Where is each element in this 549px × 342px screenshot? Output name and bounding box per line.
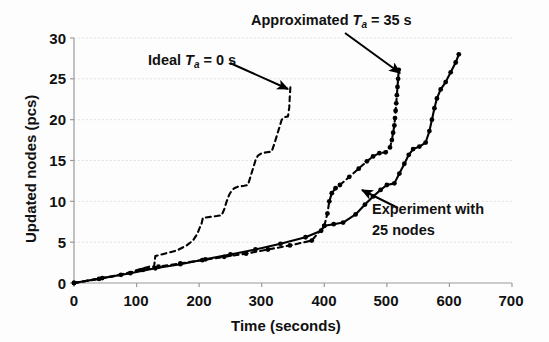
x-tick-label: 600 — [429, 292, 469, 309]
series-marker-1 — [329, 191, 334, 196]
series-marker-1 — [383, 150, 388, 155]
tick-marks — [70, 38, 512, 287]
annotation-approximated: Approximated Ta = 35 s — [251, 10, 412, 32]
y-tick-label: 15 — [36, 152, 66, 169]
series-marker-1 — [394, 93, 399, 98]
y-tick-label: 5 — [36, 234, 66, 251]
annotation-approximated-suffix: = 35 s — [367, 12, 412, 28]
x-tick-label: 200 — [179, 292, 219, 309]
series-marker-2 — [253, 247, 258, 252]
x-tick-label: 700 — [491, 292, 531, 309]
x-tick-label: 400 — [304, 292, 344, 309]
series-marker-2 — [363, 202, 368, 207]
x-tick-label: 500 — [366, 292, 406, 309]
series-marker-2 — [423, 140, 428, 145]
series-marker-2 — [402, 161, 407, 166]
series-marker-1 — [396, 76, 401, 81]
chart-plot-area — [0, 0, 549, 342]
series-marker-1 — [394, 101, 399, 106]
series-marker-2 — [153, 266, 158, 271]
x-tick-label: 0 — [54, 292, 94, 309]
series-marker-2 — [331, 222, 336, 227]
series-line-0 — [74, 85, 290, 283]
series-marker-1 — [389, 138, 394, 143]
series-marker-1 — [393, 108, 398, 113]
series-marker-2 — [353, 212, 358, 217]
series-marker-1 — [309, 238, 314, 243]
series-marker-2 — [322, 223, 327, 228]
series-marker-2 — [319, 228, 324, 233]
series-marker-1 — [377, 151, 382, 156]
series-marker-2 — [432, 106, 437, 111]
annotation-ideal-suffix: = 0 s — [200, 52, 237, 68]
series-marker-2 — [456, 52, 461, 57]
series-marker-2 — [435, 96, 440, 101]
y-axis-title: Updated nodes (pcs) — [22, 95, 39, 243]
series-marker-2 — [384, 183, 389, 188]
series-marker-1 — [371, 154, 376, 159]
series-marker-1 — [356, 166, 361, 171]
annotation-arrow-approximated — [345, 33, 400, 73]
y-tick-label: 10 — [36, 193, 66, 210]
series-marker-2 — [430, 117, 435, 122]
series-marker-2 — [228, 252, 233, 257]
annotation-experiment-line1: Experiment with — [372, 199, 484, 220]
series-marker-1 — [391, 130, 396, 135]
series-marker-2 — [128, 271, 133, 276]
annotation-experiment-line2: 25 nodes — [372, 220, 484, 241]
y-tick-label: 20 — [36, 111, 66, 128]
annotation-ideal-prefix: Ideal — [148, 52, 185, 68]
series-marker-2 — [397, 171, 402, 176]
series-marker-1 — [388, 145, 393, 150]
annotation-arrows — [230, 33, 400, 208]
series-marker-2 — [453, 60, 458, 65]
series-marker-1 — [333, 186, 338, 191]
series-marker-2 — [341, 220, 346, 225]
annotation-ideal-subscript: a — [194, 59, 200, 70]
series-marker-2 — [303, 235, 308, 240]
series-marker-2 — [392, 181, 397, 186]
series-marker-2 — [100, 276, 105, 281]
series-marker-2 — [448, 70, 453, 75]
series-marker-1 — [338, 183, 343, 188]
series-marker-2 — [411, 147, 416, 152]
series-marker-1 — [327, 199, 332, 204]
series-marker-2 — [72, 281, 77, 286]
series-marker-2 — [203, 257, 208, 262]
y-tick-label: 30 — [36, 30, 66, 47]
series-marker-2 — [278, 241, 283, 246]
series-marker-2 — [378, 188, 383, 193]
annotation-ideal-symbol: T — [185, 52, 194, 68]
series-marker-2 — [427, 129, 432, 134]
series-marker-2 — [443, 80, 448, 85]
series-marker-1 — [392, 123, 397, 128]
series-marker-1 — [395, 85, 400, 90]
y-tick-label: 0 — [36, 275, 66, 292]
annotation-experiment: Experiment with 25 nodes — [372, 199, 484, 241]
series-marker-1 — [325, 211, 330, 216]
annotation-arrow-ideal — [230, 63, 288, 89]
annotation-ideal: Ideal Ta = 0 s — [148, 50, 236, 72]
x-tick-label: 300 — [241, 292, 281, 309]
annotation-approximated-subscript: a — [361, 19, 367, 30]
series-marker-2 — [417, 144, 422, 149]
data-series-layer — [72, 52, 462, 285]
x-tick-label: 100 — [116, 292, 156, 309]
series-marker-2 — [178, 262, 183, 267]
series-marker-2 — [406, 152, 411, 157]
x-axis-title: Time (seconds) — [231, 317, 341, 334]
series-marker-1 — [347, 174, 352, 179]
chart-figure: 30 25 20 15 10 5 0 0 100 200 300 400 500… — [0, 0, 549, 342]
series-marker-1 — [364, 159, 369, 164]
y-tick-label: 25 — [36, 70, 66, 87]
series-marker-1 — [393, 116, 398, 121]
series-marker-2 — [438, 87, 443, 92]
annotation-approximated-prefix: Approximated — [251, 12, 353, 28]
series-marker-1 — [287, 243, 292, 248]
